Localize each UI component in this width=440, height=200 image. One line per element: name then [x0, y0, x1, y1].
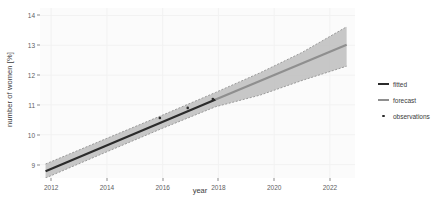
y-axis-tick-label: 9 — [31, 161, 35, 168]
x-axis-tick-mark — [218, 178, 219, 181]
y-axis-title-text: number of women [%] — [5, 52, 14, 127]
legend-line-swatch — [378, 99, 389, 101]
chart-legend: fittedforecastobservations — [378, 0, 440, 200]
legend-dot-swatch — [382, 115, 384, 117]
legend-item-label: observations — [393, 113, 430, 120]
x-axis-tick-mark — [329, 178, 330, 181]
legend-key-dot — [378, 111, 389, 122]
x-axis-title: year — [45, 186, 355, 195]
legend-item-observations[interactable]: observations — [378, 111, 440, 122]
y-axis-tick-label: 10 — [28, 131, 35, 138]
legend-item-fitted[interactable]: fitted — [378, 79, 440, 90]
legend-item-forecast[interactable]: forecast — [378, 95, 440, 106]
y-axis-tick-label: 12 — [28, 72, 35, 79]
legend-item-label: forecast — [393, 97, 416, 104]
legend-line-swatch — [378, 83, 389, 85]
legend-key-line — [378, 95, 389, 106]
y-axis-tick-label: 14 — [28, 12, 35, 19]
confidence-band — [46, 27, 347, 178]
trend-lines — [46, 45, 347, 171]
plot-panel — [40, 8, 355, 178]
plot-canvas — [40, 8, 355, 178]
y-axis-tick-label: 13 — [28, 42, 35, 49]
y-axis: 91011121314 — [14, 0, 40, 178]
legend-item-label: fitted — [393, 81, 407, 88]
x-axis-tick-mark — [162, 178, 163, 181]
x-axis-tick-mark — [274, 178, 275, 181]
x-axis-tick-mark — [106, 178, 107, 181]
x-axis-tick-mark — [51, 178, 52, 181]
y-axis-tick-label: 11 — [28, 101, 35, 108]
chart-figure: number of women [%] 91011121314 20122014… — [0, 0, 440, 200]
legend-key-line — [378, 79, 389, 90]
